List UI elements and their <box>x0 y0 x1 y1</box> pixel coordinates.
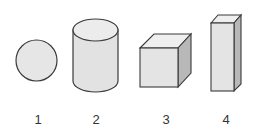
label-shape-3: 3 <box>156 112 176 128</box>
cube-shape <box>140 34 191 87</box>
label-shape-1: 1 <box>28 112 48 128</box>
rectangular-prism-shape <box>211 15 241 91</box>
label-shape-2: 2 <box>86 112 106 128</box>
label-shape-4: 4 <box>216 112 236 128</box>
sphere-shape <box>16 40 57 81</box>
cylinder-shape <box>73 19 118 92</box>
